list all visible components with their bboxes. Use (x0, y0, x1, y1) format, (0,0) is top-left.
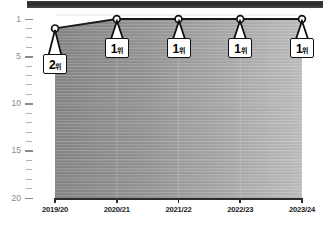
x-axis-label: 2019/20 (29, 205, 81, 214)
x-axis-tick (54, 198, 56, 203)
data-label-unit: 위 (241, 47, 247, 54)
data-label-callout[interactable]: 2위 (43, 54, 67, 74)
x-axis-label: 2022/23 (214, 205, 266, 214)
x-axis-label: 2023/24 (276, 205, 325, 214)
data-label-unit: 위 (55, 63, 61, 70)
data-label-unit: 위 (179, 47, 185, 54)
x-axis-label: 2020/21 (91, 205, 143, 214)
data-label-unit: 위 (302, 47, 308, 54)
data-label-callout[interactable]: 1위 (228, 38, 252, 58)
x-axis-tick (116, 198, 118, 203)
data-label-callout[interactable]: 1위 (105, 38, 129, 58)
data-label-callout[interactable]: 1위 (290, 38, 314, 58)
x-axis-tick (178, 198, 180, 203)
data-label-callout[interactable]: 1위 (167, 38, 191, 58)
x-axis-label: 2021/22 (153, 205, 205, 214)
chart-container: 15101520 (0, 0, 325, 226)
data-label-unit: 위 (117, 47, 123, 54)
x-axis-tick (301, 198, 303, 203)
x-axis-tick (239, 198, 241, 203)
